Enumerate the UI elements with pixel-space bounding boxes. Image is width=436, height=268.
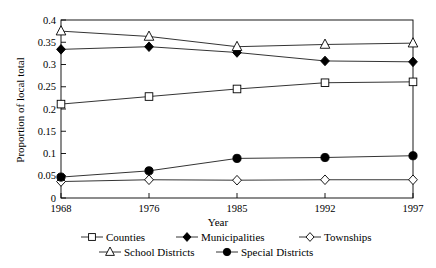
- legend-label: School Districts: [124, 246, 195, 258]
- series-counties: [57, 78, 417, 108]
- y-tick-label: 0.05: [38, 170, 56, 181]
- legend-item-special-districts[interactable]: Special Districts: [216, 246, 313, 258]
- legend-item-townships[interactable]: Townships: [299, 231, 372, 243]
- series-school-districts: [56, 26, 418, 51]
- chart-legend: CountiesMunicipalitiesTownshipsSchool Di…: [81, 231, 372, 258]
- y-tick-label: 0.2: [43, 104, 56, 115]
- chart-figure: Proportion of local total Year 00.050.10…: [0, 0, 436, 268]
- x-tick-label: 1976: [139, 203, 160, 214]
- y-tick-label: 0.15: [38, 126, 56, 137]
- y-tick-label: 0.35: [38, 37, 56, 48]
- legend-item-school-districts[interactable]: School Districts: [99, 246, 195, 258]
- legend-label: Townships: [324, 231, 372, 243]
- x-tick-label: 1992: [315, 203, 336, 214]
- x-tick-label: 1968: [51, 203, 72, 214]
- y-tick-label: 0: [51, 193, 56, 204]
- legend-label: Special Districts: [241, 246, 313, 258]
- legend-label: Counties: [106, 231, 145, 243]
- line-chart-plot: 00.050.10.150.20.250.30.350.4 1968197619…: [0, 0, 436, 268]
- series-townships: [57, 175, 418, 186]
- data-series: [56, 26, 418, 187]
- x-tick-label: 1985: [227, 203, 248, 214]
- legend-item-counties[interactable]: Counties: [81, 231, 145, 243]
- y-tick-label: 0.25: [38, 81, 56, 92]
- x-tick-label: 1997: [403, 203, 424, 214]
- y-tick-label: 0.4: [43, 15, 57, 26]
- legend-item-municipalities[interactable]: Municipalities: [176, 231, 265, 243]
- y-tick-label: 0.3: [43, 59, 56, 70]
- x-axis-ticks: 19681976198519921997: [51, 193, 424, 214]
- legend-label: Municipalities: [201, 231, 265, 243]
- y-tick-label: 0.1: [43, 148, 56, 159]
